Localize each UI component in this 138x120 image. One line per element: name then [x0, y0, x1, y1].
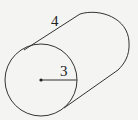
- cylinder-drawing: [0, 0, 138, 120]
- cylinder-diagram: 4 3: [0, 0, 138, 120]
- center-point: [39, 78, 42, 81]
- radius-label: 3: [60, 64, 68, 79]
- back-cap-arc: [80, 12, 129, 70]
- length-label: 4: [51, 14, 59, 29]
- bottom-edge-line: [64, 70, 118, 108]
